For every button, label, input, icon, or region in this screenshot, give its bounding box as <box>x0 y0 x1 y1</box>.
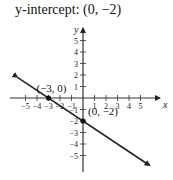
axes: xy <box>10 24 168 172</box>
point-label: (0, −2) <box>88 105 118 118</box>
y-tick-label: 3 <box>74 60 78 69</box>
y-tick-label: −4 <box>69 140 78 149</box>
y-tick-label: 1 <box>74 83 78 92</box>
y-tick-label: −3 <box>69 129 78 138</box>
point-marker <box>46 95 51 100</box>
x-tick-label: 4 <box>127 102 131 111</box>
y-tick-label: −5 <box>69 152 78 161</box>
coordinate-plane: xy −5−4−3−2−112345−5−4−3−2−112345 (−3, 0… <box>0 0 173 180</box>
x-tick-label: −5 <box>21 102 30 111</box>
x-tick-label: 5 <box>139 102 143 111</box>
y-tick-label: 5 <box>74 37 78 46</box>
y-tick-label: −2 <box>69 117 78 126</box>
y-tick-label: 2 <box>74 71 78 80</box>
point-label: (−3, 0) <box>37 82 67 95</box>
y-tick-label: 4 <box>74 48 78 57</box>
point-marker <box>80 118 85 123</box>
x-tick-label: −3 <box>44 102 53 111</box>
x-tick-label: −4 <box>33 102 42 111</box>
y-axis-label: y <box>73 24 79 35</box>
x-axis-label: x <box>162 99 168 110</box>
